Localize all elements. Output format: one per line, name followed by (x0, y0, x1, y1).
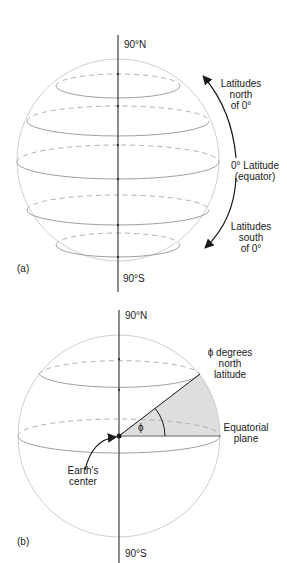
panel-a-south-pole-label: 90°S (123, 273, 145, 284)
panel-b-globe (18, 310, 220, 563)
annotation-line: Latitudes (210, 78, 272, 89)
annotation-line: (equator) (224, 171, 286, 182)
annotation-line: center (58, 476, 108, 487)
annotation-line: ϕ degrees (202, 347, 258, 358)
annotation-line: Equatorial (218, 422, 274, 433)
panel-b-south-pole-label: 90°S (125, 548, 147, 559)
annotation-latitudes-north: Latitudes north of 0° (210, 78, 272, 111)
annotation-line: Latitudes (220, 221, 282, 232)
panel-a-label: (a) (17, 263, 29, 274)
annotation-line: north (202, 358, 258, 369)
panel-b-north-pole-label: 90°N (125, 310, 147, 321)
annotation-latitudes-south: Latitudes south of 0° (220, 221, 282, 254)
angle-phi-symbol: ϕ (138, 422, 144, 433)
annotation-line: of 0° (220, 243, 282, 254)
annotation-equatorial-plane: Equatorial plane (218, 422, 274, 444)
panel-a-globe (17, 35, 219, 292)
annotation-line: latitude (202, 369, 258, 380)
annotation-phi-degrees-north: ϕ degrees north latitude (202, 347, 258, 380)
panel-a-north-pole-label: 90°N (124, 39, 146, 50)
annotation-line: of 0° (210, 100, 272, 111)
annotation-earths-center: Earth's center (58, 465, 108, 487)
annotation-line: 0° Latitude (224, 160, 286, 171)
annotation-line: north (210, 89, 272, 100)
annotation-equator: 0° Latitude (equator) (224, 160, 286, 182)
annotation-line: Earth's (58, 465, 108, 476)
annotation-line: south (220, 232, 282, 243)
panel-b-label: (b) (17, 536, 29, 547)
annotation-line: plane (218, 433, 274, 444)
